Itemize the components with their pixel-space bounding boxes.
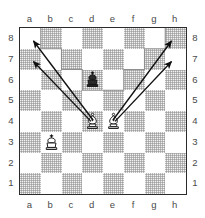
file-label-bottom-b: b: [44, 199, 56, 210]
file-label-bottom-c: c: [65, 199, 77, 210]
file-label-bottom-g: g: [148, 199, 160, 210]
file-label-top-f: f: [127, 13, 139, 24]
arrow-e4-h8: [113, 41, 171, 120]
rank-label-left-4: 4: [6, 115, 16, 126]
file-label-top-c: c: [65, 13, 77, 24]
chessboard[interactable]: [19, 27, 187, 195]
diagram-title: [52, 1, 152, 10]
chess-diagram: a b c d e f g h a b c d e f g h 8 7 6 5 …: [0, 0, 205, 218]
file-label-top-b: b: [44, 13, 56, 24]
rank-label-left-7: 7: [6, 53, 16, 64]
rank-label-left-2: 2: [6, 157, 16, 168]
arrow-d4-a8: [34, 41, 93, 120]
file-label-top-e: e: [106, 13, 118, 24]
file-label-top-g: g: [148, 13, 160, 24]
rank-label-left-5: 5: [6, 94, 16, 105]
rank-label-left-1: 1: [6, 177, 16, 188]
file-label-bottom-h: h: [169, 199, 181, 210]
arrow-d4-a7: [34, 62, 92, 122]
rank-label-right-6: 6: [190, 74, 200, 85]
rank-label-right-8: 8: [190, 32, 200, 43]
move-arrows: [20, 28, 186, 194]
rank-label-right-5: 5: [190, 94, 200, 105]
rank-label-right-4: 4: [190, 115, 200, 126]
rank-label-left-8: 8: [6, 32, 16, 43]
arrow-e4-h7: [115, 62, 172, 122]
rank-label-left-6: 6: [6, 74, 16, 85]
file-label-bottom-a: a: [23, 199, 35, 210]
file-label-bottom-f: f: [127, 199, 139, 210]
file-label-top-a: a: [23, 13, 35, 24]
rank-label-right-2: 2: [190, 157, 200, 168]
rank-label-right-3: 3: [190, 136, 200, 147]
rank-label-right-7: 7: [190, 53, 200, 64]
file-label-top-h: h: [169, 13, 181, 24]
file-label-bottom-e: e: [106, 199, 118, 210]
rank-label-right-1: 1: [190, 177, 200, 188]
file-label-top-d: d: [86, 13, 98, 24]
rank-label-left-3: 3: [6, 136, 16, 147]
file-label-bottom-d: d: [86, 199, 98, 210]
